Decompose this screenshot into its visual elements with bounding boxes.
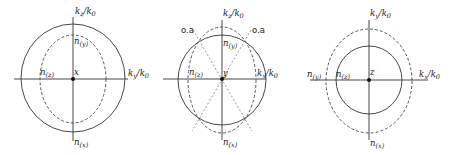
- bottom-label: n(x): [370, 138, 385, 150]
- origin-dot: [367, 78, 371, 82]
- vertical-axis-label: kz/k0: [223, 8, 244, 20]
- origin-label: z: [369, 67, 375, 77]
- panel-z: ky/k0 kx/k0 z n(y) n(z) n(x): [307, 8, 440, 150]
- bottom-label: n(x): [74, 137, 89, 149]
- optic-axis-label-left: o.a: [181, 25, 194, 35]
- left-label: n(z): [336, 69, 350, 81]
- top-label: n(y): [223, 38, 238, 50]
- top-label: n(y): [74, 36, 89, 48]
- vertical-axis-label: kz/k0: [75, 6, 96, 18]
- panel-y: kz/k0 kx/k0 y n(y) n(z) n(x) o.a o.a: [163, 8, 278, 149]
- origin-label: y: [222, 68, 228, 78]
- origin-dot: [71, 77, 75, 81]
- horizontal-axis-label: kx/k0: [257, 68, 278, 80]
- origin-label: x: [74, 67, 79, 77]
- vertical-axis-label: ky/k0: [370, 8, 391, 20]
- horizontal-axis-label: ky/k0: [128, 68, 149, 80]
- left-label: n(z): [189, 67, 203, 79]
- left-outer-label: n(y): [307, 69, 322, 81]
- index-ellipsoid-diagram: kz/k0 ky/k0 x n(y) n(z) n(x) kz/k0 kx/k0…: [0, 0, 453, 155]
- optic-axis-label-right: o.a: [252, 25, 265, 35]
- panel-x: kz/k0 ky/k0 x n(y) n(z) n(x): [14, 6, 149, 149]
- bottom-label: n(x): [223, 137, 238, 149]
- left-label: n(z): [40, 67, 54, 79]
- horizontal-axis-label: kx/k0: [419, 69, 440, 81]
